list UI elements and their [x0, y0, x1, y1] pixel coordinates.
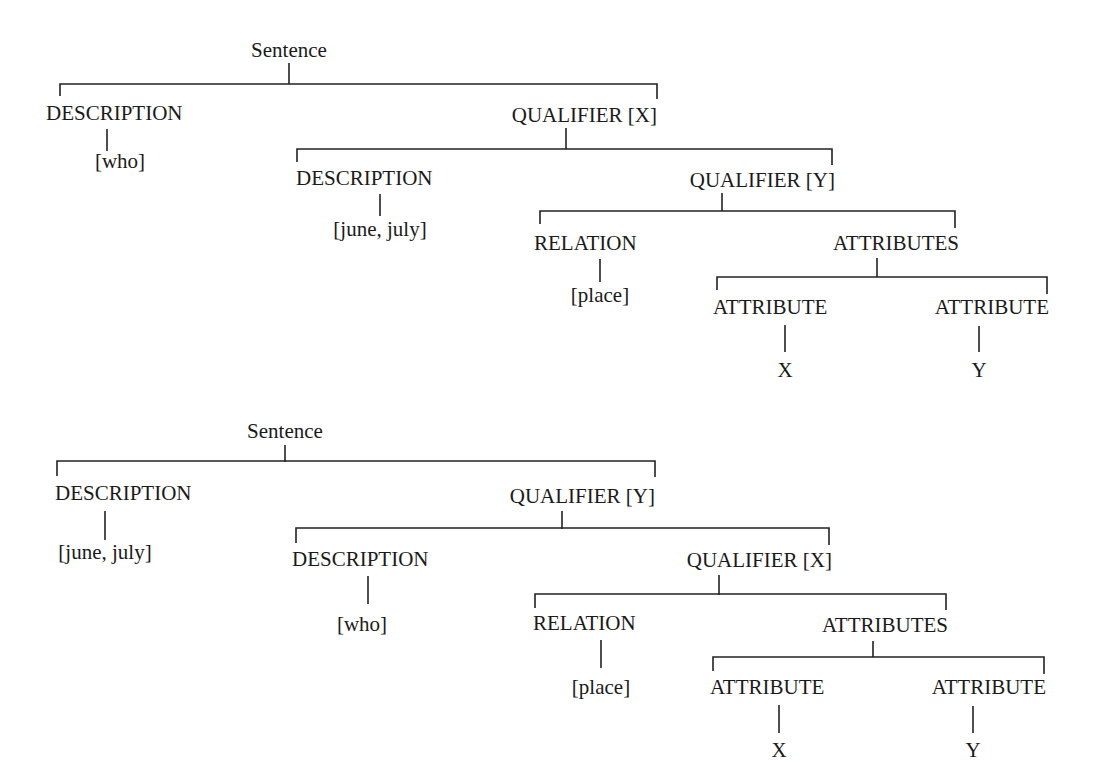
- description-node: DESCRIPTION: [292, 547, 429, 571]
- qualifier-branch: [297, 149, 832, 165]
- attribute-node: ATTRIBUTE: [935, 295, 1049, 319]
- relation-node: RELATION: [534, 231, 637, 255]
- attribute-node: ATTRIBUTE: [932, 675, 1046, 699]
- attributes-node: ATTRIBUTES: [822, 613, 948, 637]
- description-node: DESCRIPTION: [55, 481, 192, 505]
- attributes-branch: [717, 277, 1047, 294]
- tree-2: Sentence DESCRIPTION [june, july] QUALIF…: [55, 419, 1046, 762]
- qualifier-node: QUALIFIER [X]: [687, 548, 832, 572]
- attributes-branch: [713, 657, 1044, 674]
- qualifier-branch: [540, 211, 955, 228]
- description-value: [who]: [337, 612, 387, 636]
- tree-diagrams: Sentence DESCRIPTION [who] QUALIFIER [X]…: [0, 0, 1107, 784]
- root-branch: [60, 84, 657, 99]
- description-value: [who]: [95, 149, 145, 173]
- description-node: DESCRIPTION: [296, 166, 433, 190]
- relation-value: [place]: [571, 283, 629, 307]
- relation-value: [place]: [572, 675, 630, 699]
- tree-1: Sentence DESCRIPTION [who] QUALIFIER [X]…: [46, 38, 1049, 382]
- qualifier-branch: [296, 528, 829, 545]
- root-node: Sentence: [251, 38, 327, 62]
- attribute-node: ATTRIBUTE: [710, 675, 824, 699]
- description-value: [june, july]: [58, 540, 151, 564]
- relation-node: RELATION: [533, 611, 636, 635]
- qualifier-node: QUALIFIER [X]: [512, 103, 657, 127]
- root-branch: [57, 461, 655, 477]
- root-node: Sentence: [247, 419, 323, 443]
- attribute-value: Y: [971, 358, 986, 382]
- attribute-node: ATTRIBUTE: [713, 295, 827, 319]
- description-node: DESCRIPTION: [46, 101, 183, 125]
- description-value: [june, july]: [333, 217, 426, 241]
- qualifier-node: QUALIFIER [Y]: [510, 484, 655, 508]
- attribute-value: Y: [965, 738, 980, 762]
- qualifier-branch: [535, 594, 946, 610]
- attribute-value: X: [771, 738, 786, 762]
- attributes-node: ATTRIBUTES: [833, 231, 959, 255]
- attribute-value: X: [777, 358, 792, 382]
- qualifier-node: QUALIFIER [Y]: [690, 168, 835, 192]
